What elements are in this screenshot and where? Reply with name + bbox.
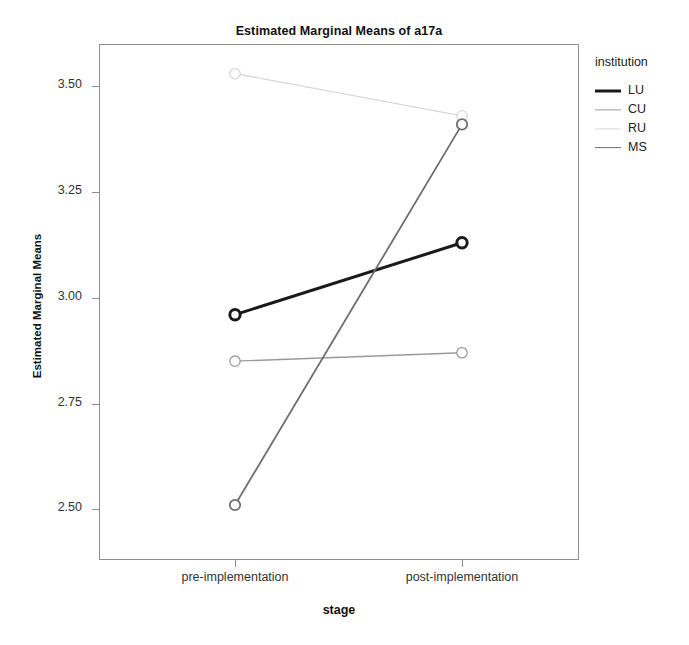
chart-title: Estimated Marginal Means of a17a	[99, 24, 579, 38]
data-point-marker	[230, 356, 240, 366]
x-axis-title: stage	[99, 603, 579, 617]
legend-item-label: LU	[628, 84, 644, 97]
y-tick-mark	[92, 192, 99, 193]
plot-area	[99, 44, 579, 560]
series-line	[235, 353, 462, 361]
y-tick-mark	[92, 298, 99, 299]
legend-line-swatch	[595, 124, 621, 134]
legend-item-ms[interactable]: MS	[595, 138, 689, 157]
legend: institution LUCURUMS	[595, 55, 689, 157]
data-point-marker	[230, 500, 240, 510]
y-tick-mark	[92, 404, 99, 405]
series-ru	[230, 68, 467, 121]
series-ms	[230, 119, 467, 510]
legend-item-label: MS	[628, 141, 647, 154]
series-line	[235, 74, 462, 116]
x-tick-mark	[235, 560, 236, 567]
legend-item-ru[interactable]: RU	[595, 119, 689, 138]
series-cu	[230, 348, 467, 367]
x-tick-label: post-implementation	[362, 570, 562, 584]
x-tick-mark	[462, 560, 463, 567]
y-tick-mark	[92, 86, 99, 87]
y-tick-mark	[92, 509, 99, 510]
data-point-marker	[457, 238, 467, 248]
legend-line-swatch	[595, 143, 621, 153]
data-point-marker	[230, 309, 240, 319]
legend-item-label: CU	[628, 103, 646, 116]
y-tick-label: 3.50	[30, 77, 82, 91]
y-tick-label: 2.50	[30, 500, 82, 514]
x-tick-label: pre-implementation	[135, 570, 335, 584]
legend-title: institution	[595, 55, 689, 69]
legend-entries: LUCURUMS	[595, 81, 689, 157]
page-header-remnant	[385, 0, 685, 12]
series-line	[235, 243, 462, 315]
data-point-marker	[230, 68, 240, 78]
series-line	[235, 124, 462, 505]
y-tick-label: 3.25	[30, 183, 82, 197]
legend-line-swatch	[595, 105, 621, 115]
legend-item-label: RU	[628, 122, 646, 135]
legend-item-lu[interactable]: LU	[595, 81, 689, 100]
data-point-marker	[457, 119, 467, 129]
y-axis-title: Estimated Marginal Means	[31, 206, 43, 406]
series-lu	[230, 238, 467, 320]
data-point-marker	[457, 348, 467, 358]
legend-item-cu[interactable]: CU	[595, 100, 689, 119]
chart-page: Estimated Marginal Means of a17a 2.502.7…	[0, 0, 689, 645]
legend-line-swatch	[595, 86, 621, 96]
